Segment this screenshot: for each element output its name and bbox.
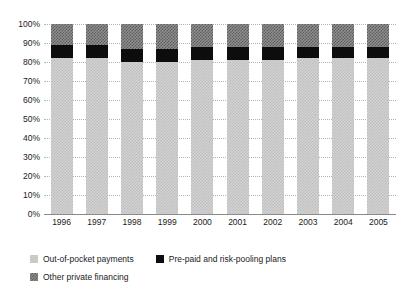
y-tick-label: 90% bbox=[0, 39, 40, 48]
bar-segment bbox=[156, 24, 178, 49]
x-tick-label: 1996 bbox=[42, 218, 82, 227]
bar-segment bbox=[121, 62, 143, 214]
chart-legend: Out-of-pocket payments Pre-paid and risk… bbox=[30, 250, 400, 286]
x-tick-label: 2004 bbox=[323, 218, 363, 227]
bar-segment bbox=[156, 62, 178, 214]
legend-item-pre-paid-risk-pooling: Pre-paid and risk-pooling plans bbox=[156, 255, 286, 264]
bar-group bbox=[191, 24, 213, 214]
x-tick-label: 2005 bbox=[358, 218, 398, 227]
x-tick-label: 2002 bbox=[253, 218, 293, 227]
x-tick-label: 2000 bbox=[182, 218, 222, 227]
y-tick-label: 50% bbox=[0, 115, 40, 124]
y-axis: 0%10%20%30%40%50%60%70%80%90%100% bbox=[0, 24, 40, 214]
bar-segment bbox=[51, 45, 73, 58]
plot-area bbox=[44, 24, 396, 214]
bar-segment bbox=[332, 47, 354, 58]
y-tick-label: 80% bbox=[0, 58, 40, 67]
bar-segment bbox=[262, 47, 284, 60]
bar-segment bbox=[227, 47, 249, 60]
y-tick-label: 20% bbox=[0, 172, 40, 181]
bar-segment bbox=[227, 60, 249, 214]
legend-row-1: Out-of-pocket payments Pre-paid and risk… bbox=[30, 250, 400, 268]
bar-segment bbox=[297, 58, 319, 214]
x-tick-label: 2003 bbox=[288, 218, 328, 227]
bar-segment bbox=[191, 24, 213, 47]
y-tick-label: 100% bbox=[0, 20, 40, 29]
bar-segment bbox=[262, 60, 284, 214]
x-tick-label: 1999 bbox=[147, 218, 187, 227]
y-tick-label: 40% bbox=[0, 134, 40, 143]
y-tick-label: 60% bbox=[0, 96, 40, 105]
bar-segment bbox=[51, 58, 73, 214]
x-tick-label: 1997 bbox=[77, 218, 117, 227]
bar-segment bbox=[332, 58, 354, 214]
bar-segment bbox=[121, 24, 143, 49]
bar-segment bbox=[367, 58, 389, 214]
bar-segment bbox=[86, 45, 108, 58]
legend-item-out-of-pocket-payments: Out-of-pocket payments bbox=[30, 255, 134, 264]
bar-group bbox=[156, 24, 178, 214]
legend-item-other-private-financing: Other private financing bbox=[30, 273, 129, 282]
bar-segment bbox=[297, 47, 319, 58]
bar-segment bbox=[367, 47, 389, 58]
bar-group bbox=[86, 24, 108, 214]
bar-segment bbox=[332, 24, 354, 47]
bar-group bbox=[227, 24, 249, 214]
legend-label-pre-paid: Pre-paid and risk-pooling plans bbox=[169, 255, 286, 264]
y-tick-label: 10% bbox=[0, 191, 40, 200]
legend-swatch-icon-out-of-pocket bbox=[30, 255, 38, 263]
bar-segment bbox=[51, 24, 73, 45]
bar-group bbox=[51, 24, 73, 214]
legend-label-other-private: Other private financing bbox=[43, 273, 129, 282]
bar-segment bbox=[86, 24, 108, 45]
bar-group bbox=[332, 24, 354, 214]
bar-group bbox=[297, 24, 319, 214]
legend-row-2: Other private financing bbox=[30, 268, 400, 286]
y-tick-label: 0% bbox=[0, 210, 40, 219]
x-tick-label: 1998 bbox=[112, 218, 152, 227]
bar-segment bbox=[191, 47, 213, 60]
gridline-0% bbox=[44, 214, 396, 215]
bar-segment bbox=[227, 24, 249, 47]
bar-segment bbox=[191, 60, 213, 214]
bar-segment bbox=[262, 24, 284, 47]
stacked-bar-chart: 0%10%20%30%40%50%60%70%80%90%100% 199619… bbox=[0, 0, 406, 292]
bar-group bbox=[121, 24, 143, 214]
bar-group bbox=[367, 24, 389, 214]
bar-segment bbox=[367, 24, 389, 47]
y-tick-label: 30% bbox=[0, 153, 40, 162]
bar-segment bbox=[297, 24, 319, 47]
bar-segment bbox=[156, 49, 178, 62]
bar-group bbox=[262, 24, 284, 214]
bar-segment bbox=[121, 49, 143, 62]
x-axis: 1996199719981999200020012002200320042005 bbox=[44, 216, 396, 232]
legend-swatch-icon-pre-paid bbox=[156, 255, 164, 263]
y-tick-label: 70% bbox=[0, 77, 40, 86]
legend-swatch-icon-other-private bbox=[30, 273, 38, 281]
bar-segment bbox=[86, 58, 108, 214]
legend-label-out-of-pocket: Out-of-pocket payments bbox=[43, 255, 134, 264]
x-tick-label: 2001 bbox=[218, 218, 258, 227]
